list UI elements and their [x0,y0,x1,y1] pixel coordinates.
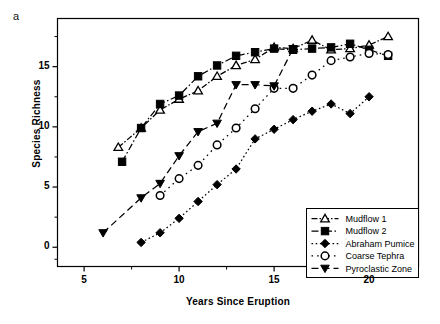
data-point-circle-open [384,51,392,59]
data-point-square-filled [118,158,125,165]
data-point-square-filled [308,45,315,52]
data-point-square-filled [156,100,163,107]
data-point-triangle-down-filled [175,153,184,160]
data-point-square-filled [270,45,277,52]
legend-label: Pyroclastic Zone [346,264,413,274]
data-point-circle-open [194,162,202,170]
data-point-square-filled [213,62,220,69]
data-point-triangle-up-open [308,36,317,43]
data-point-square-filled [327,44,334,51]
data-point-circle-open [308,71,316,79]
data-point-square-filled [175,92,182,99]
y-tick-label: 15 [28,60,50,71]
data-point-circle-open [213,141,221,149]
data-point-circle-open [289,85,297,93]
legend-item-coarse-tephra[interactable]: Coarse Tephra [312,251,405,261]
data-point-triangle-down-filled [213,120,222,127]
data-point-diamond-filled [194,197,202,205]
x-tick-label: 5 [74,274,94,285]
data-point-circle-open [251,105,259,113]
figure-container: a Species Richness Years Since Eruption … [0,0,440,324]
data-point-square-filled [346,40,353,47]
data-point-diamond-filled [308,107,316,115]
data-point-triangle-down-filled [232,82,241,89]
data-point-diamond-filled [270,125,278,133]
data-point-triangle-up-open [232,61,241,68]
data-point-square-filled [137,124,144,131]
data-point-square-filled [251,49,258,56]
data-point-square-filled [232,52,239,59]
data-point-circle-open [365,50,373,58]
legend-label: Abraham Pumice [346,239,415,249]
x-tick-label: 20 [359,274,379,285]
data-point-circle-open [156,192,164,200]
chart-legend: Mudflow 1Mudflow 2Abraham PumiceCoarse T… [307,209,419,278]
data-point-triangle-up-open [384,32,393,39]
data-point-triangle-down-filled [156,180,165,187]
legend-item-mudflow-2[interactable]: Mudflow 2 [312,226,387,236]
x-tick-label: 15 [264,274,284,285]
data-point-circle-open [232,124,240,132]
x-tick-label: 10 [169,274,189,285]
data-point-circle-open [175,175,183,183]
legend-label: Mudflow 1 [346,214,387,224]
y-tick-label: 5 [28,180,50,191]
data-point-diamond-filled [213,180,221,188]
data-point-circle-open [321,252,329,260]
data-point-diamond-filled [327,100,335,108]
legend-label: Coarse Tephra [346,251,405,261]
data-point-triangle-up-open [213,72,222,79]
data-point-triangle-up-open [194,86,203,93]
data-point-circle-open [327,57,335,65]
data-point-diamond-filled [232,165,240,173]
data-point-diamond-filled [137,238,145,246]
data-point-square-filled [321,227,328,234]
y-tick-label: 0 [28,240,50,251]
legend-label: Mudflow 2 [346,226,387,236]
data-point-square-filled [194,73,201,80]
data-point-diamond-filled [175,214,183,222]
data-point-circle-open [346,53,354,61]
data-point-diamond-filled [251,135,259,143]
y-tick-label: 10 [28,120,50,131]
data-point-triangle-down-filled [99,230,108,237]
data-point-diamond-filled [289,115,297,123]
